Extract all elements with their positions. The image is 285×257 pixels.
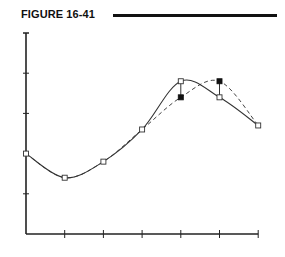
filled-square-marker [178, 95, 183, 100]
open-square-marker [217, 95, 222, 100]
filled-square-marker [217, 79, 222, 84]
open-square-marker [101, 159, 106, 164]
open-square-marker [62, 175, 67, 180]
open-square-marker [24, 151, 29, 156]
open-square-marker [178, 79, 183, 84]
open-square-marker [140, 127, 145, 132]
line-chart [0, 0, 285, 257]
open-square-marker [256, 123, 261, 128]
